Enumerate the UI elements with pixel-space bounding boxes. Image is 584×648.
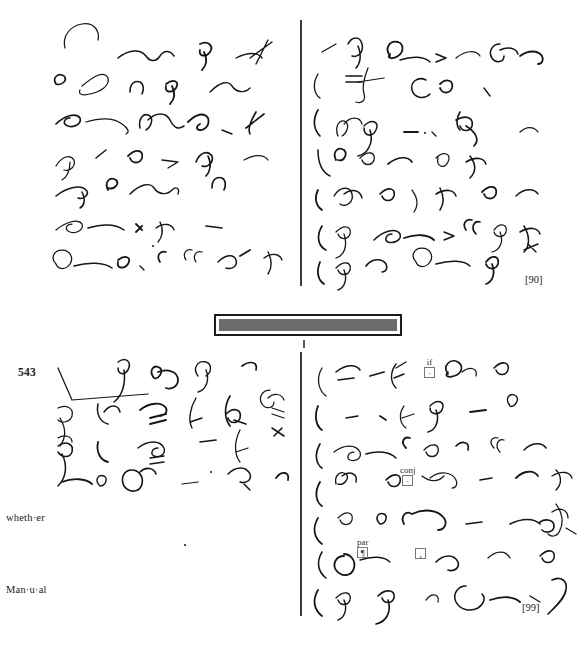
- shorthand-stroke: [58, 406, 72, 446]
- shorthand-stroke: [436, 261, 470, 266]
- shorthand-stroke: [318, 262, 324, 284]
- shorthand-stroke: [318, 150, 330, 176]
- shorthand-stroke: [314, 74, 320, 98]
- shorthand-stroke: [335, 149, 346, 161]
- shorthand-stroke: [122, 468, 156, 491]
- shorthand-stroke: [426, 595, 438, 602]
- shorthand-stroke: [96, 150, 106, 158]
- annotation-conj-label: conj: [400, 465, 416, 475]
- annotation-comma: ,: [415, 548, 426, 566]
- annotation-if-label: if: [424, 357, 435, 367]
- shorthand-stroke: [508, 395, 518, 407]
- shorthand-stroke: [412, 190, 417, 212]
- shorthand-stroke: [314, 110, 320, 136]
- shorthand-stroke: [388, 42, 403, 58]
- shorthand-stroke: [158, 252, 166, 262]
- shorthand-stroke: [455, 586, 484, 610]
- shorthand-stroke: [272, 428, 284, 436]
- shorthand-stroke: [516, 190, 538, 196]
- shorthand-stroke: [492, 225, 506, 252]
- shorthand-stroke: [236, 40, 272, 64]
- annotation-if-box[interactable]: ·: [424, 367, 435, 378]
- shorthand-stroke: [424, 445, 438, 457]
- page-marker-upper: [90]: [525, 274, 543, 285]
- shorthand-stroke: [403, 511, 446, 530]
- section-separator-bar: [214, 314, 402, 336]
- shorthand-stroke: [222, 130, 232, 134]
- shorthand-stroke: [520, 226, 540, 252]
- shorthand-page: [90] 543 wheth·er Man·u·al if · conj ·: [0, 0, 584, 648]
- shorthand-stroke: [336, 473, 357, 485]
- shorthand-stroke: [196, 153, 212, 176]
- shorthand-stroke: [218, 256, 236, 269]
- shorthand-stroke: [520, 128, 538, 133]
- shorthand-stroke: [400, 406, 414, 428]
- shorthand-stroke: [456, 52, 480, 58]
- shorthand-stroke: [386, 475, 400, 487]
- shorthand-stroke: [62, 479, 92, 484]
- shorthand-stroke: [200, 440, 216, 442]
- shorthand-stroke: [58, 368, 148, 400]
- shorthand-stroke: [188, 115, 209, 130]
- shorthand-stroke: [444, 232, 454, 240]
- shorthand-stroke: [516, 472, 538, 478]
- shorthand-stroke: [140, 114, 184, 130]
- ink-dot: [424, 132, 426, 134]
- shorthand-stroke: [346, 416, 358, 418]
- shorthand-stroke: [212, 177, 225, 190]
- shorthand-stroke: [490, 597, 520, 602]
- shorthand-stroke: [56, 187, 87, 208]
- shorthand-stroke: [464, 220, 480, 234]
- shorthand-stroke: [540, 551, 554, 563]
- shorthand-stroke: [360, 153, 374, 165]
- shorthand-stroke: [484, 88, 490, 96]
- shorthand-stroke: [494, 363, 508, 375]
- annotation-conj: conj ·: [400, 465, 416, 493]
- annotation-conj-box[interactable]: ·: [402, 475, 413, 486]
- shorthand-stroke: [436, 154, 449, 167]
- shorthand-stroke: [520, 52, 543, 65]
- shorthand-stroke: [403, 438, 410, 448]
- shorthand-stroke: [338, 513, 352, 525]
- shorthand-stroke: [348, 38, 362, 68]
- shorthand-stroke: [316, 406, 322, 430]
- shorthand-stroke: [53, 250, 71, 269]
- shorthand-stroke: [88, 225, 124, 230]
- shorthand-stroke: [412, 79, 430, 98]
- ink-dot: [184, 544, 186, 546]
- annotation-if: if ·: [424, 357, 435, 385]
- shorthand-stroke: [228, 468, 250, 490]
- shorthand-stroke: [56, 157, 74, 180]
- shorthand-stroke: [490, 44, 518, 62]
- shorthand-stroke: [130, 81, 143, 94]
- annotation-comma-mark: ,: [419, 549, 421, 558]
- shorthand-stroke: [136, 224, 142, 232]
- shorthand-stroke: [440, 81, 452, 93]
- shorthand-stroke: [334, 188, 362, 205]
- shorthand-stroke: [482, 187, 496, 199]
- shorthand-stroke: [374, 231, 400, 243]
- shorthand-stroke: [548, 504, 576, 536]
- shorthand-stroke: [336, 593, 350, 620]
- shorthand-stroke: [97, 404, 120, 424]
- shorthand-stroke: [524, 444, 546, 450]
- annotation-par-box[interactable]: ¶: [357, 547, 368, 558]
- shorthand-stroke: [334, 446, 360, 461]
- shorthand-stroke: [64, 24, 98, 48]
- annotation-par-label: par: [357, 537, 369, 547]
- shorthand-stroke: [422, 473, 457, 488]
- shorthand-stroke: [74, 263, 112, 268]
- shorthand-stroke: [138, 442, 164, 464]
- shorthand-stroke: [436, 188, 456, 210]
- annotation-comma-box[interactable]: ,: [415, 548, 426, 559]
- shorthand-stroke: [86, 119, 128, 134]
- shorthand-stroke: [56, 221, 82, 232]
- shorthand-stroke: [55, 75, 66, 85]
- shorthand-stroke: [140, 404, 167, 424]
- shorthand-stroke: [242, 363, 256, 370]
- shorthand-stroke: [107, 179, 118, 190]
- shorthand-stroke: [244, 156, 268, 161]
- paragraph-number: 543: [18, 366, 36, 378]
- shorthand-stroke: [128, 151, 142, 163]
- shorthand-stroke: [190, 398, 202, 428]
